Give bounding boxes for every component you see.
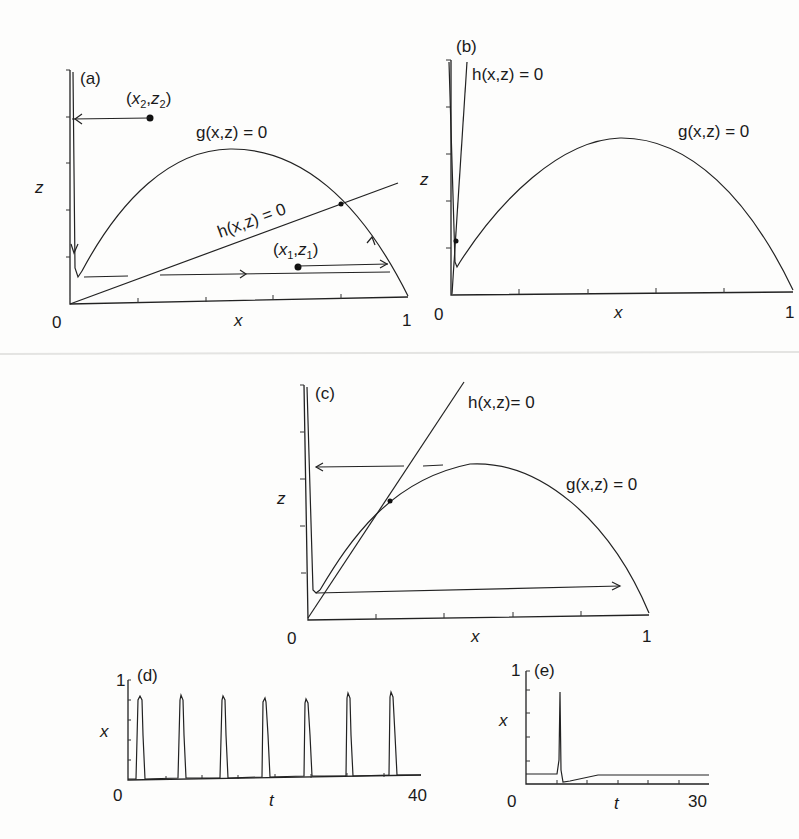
panel-a-curve-h — [70, 183, 398, 304]
panel-d-series — [128, 692, 421, 779]
panel-e-x-min: 0 — [507, 792, 516, 811]
panel-d-y-label: x — [99, 722, 109, 741]
panel-d-tag: (d) — [137, 666, 158, 685]
panel-b-equilibrium — [454, 239, 459, 244]
panel-c-left-branch — [307, 387, 320, 593]
panel-a-equilibrium — [339, 202, 344, 207]
panel-b-tag: (b) — [456, 37, 477, 56]
panel-a-g-label: g(x,z) = 0 — [196, 123, 267, 142]
panel-c: (c) h(x,z)= 0 g(x,z) = 0 z x 0 1 — [276, 382, 651, 648]
panel-a-h-label: h(x,z) = 0 — [215, 200, 289, 242]
panel-e-tag: (e) — [534, 661, 555, 680]
panel-c-x-label: x — [470, 627, 480, 646]
panel-e-y-max: 1 — [511, 661, 520, 680]
panel-c-x-max: 1 — [642, 627, 651, 646]
panel-b-x-min: 0 — [434, 305, 443, 324]
panel-d-x-max: 40 — [408, 786, 427, 805]
panel-d-x-min: 0 — [113, 786, 122, 805]
panel-e-x-label: t — [614, 794, 620, 813]
panel-b-curve-g — [460, 138, 793, 290]
panel-separator — [0, 352, 799, 354]
panel-c-x-min: 0 — [287, 629, 296, 648]
panel-b-y-label: z — [419, 170, 429, 189]
panel-b-x-label: x — [613, 303, 623, 322]
panel-e: (e) 1 x t 0 30 — [498, 661, 709, 813]
panel-a-trajectory-bottom — [160, 272, 390, 275]
panel-a-x-label: x — [233, 311, 243, 330]
panel-a-x-min: 0 — [52, 313, 61, 332]
panel-c-trajectory-bottom — [316, 586, 620, 593]
panel-d-axes — [128, 680, 421, 780]
figure-canvas: (a) (x2,z2) g(x,z) = 0 h(x,z) = 0 (x1,z1… — [0, 0, 799, 839]
panel-b-axes — [451, 60, 793, 295]
panel-e-axes — [526, 671, 709, 784]
panel-c-g-label: g(x,z) = 0 — [566, 475, 637, 494]
panel-b-curve-h — [452, 62, 467, 294]
panel-a-tag: (a) — [80, 69, 101, 88]
panel-c-tag: (c) — [315, 384, 335, 403]
panel-d-y-max: 1 — [116, 671, 125, 690]
panel-b-x-max: 1 — [785, 303, 794, 322]
panel-c-curve-h — [308, 382, 464, 618]
panel-b-g-label: g(x,z) = 0 — [678, 122, 749, 141]
panel-a-point-1-label: (x1,z1) — [273, 240, 318, 261]
panel-d-x-label: t — [269, 791, 275, 810]
panel-c-h-label: h(x,z)= 0 — [468, 393, 535, 412]
panel-a-x-max: 1 — [402, 311, 411, 330]
panel-c-y-label: z — [276, 489, 286, 508]
panel-c-axes — [304, 385, 649, 620]
panel-b-h-label: h(x,z) = 0 — [472, 65, 543, 84]
panel-a-point-2-label: (x2,z2) — [126, 89, 171, 110]
panel-a-y-label: z — [34, 178, 44, 197]
panel-e-x-max: 30 — [688, 792, 707, 811]
panel-b: (b) h(x,z) = 0 g(x,z) = 0 z x 0 1 — [419, 37, 794, 324]
panel-a-axes — [70, 70, 408, 304]
panel-c-equilibrium — [388, 499, 393, 504]
panel-a: (a) (x2,z2) g(x,z) = 0 h(x,z) = 0 (x1,z1… — [34, 69, 411, 332]
panel-e-y-label: x — [498, 711, 508, 730]
panel-a-point-1 — [295, 264, 302, 271]
panel-e-series — [526, 692, 709, 782]
panel-d: (d) 1 x t 0 40 — [99, 666, 427, 810]
